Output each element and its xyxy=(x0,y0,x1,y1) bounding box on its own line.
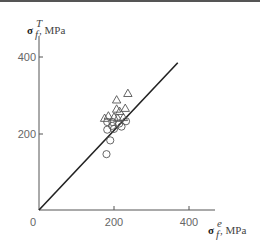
x-tick-label-400: 400 xyxy=(180,216,198,228)
y-tick-label-400: 400 xyxy=(18,51,36,63)
triangle-marker xyxy=(124,89,132,96)
circle-marker xyxy=(107,137,114,144)
x-axis-label: σ e f , MPa xyxy=(208,217,246,240)
origin-label: 0 xyxy=(30,216,36,228)
reference-line-segment xyxy=(39,63,178,210)
circle-marker xyxy=(103,151,110,158)
circle-marker xyxy=(104,126,111,133)
scatter-chart: 400 200 0 200 400 σ T f , MPa σ e f , MP… xyxy=(0,0,260,246)
svg-text:, MPa: , MPa xyxy=(39,24,65,36)
data-points xyxy=(100,89,132,158)
x-tick-label-200: 200 xyxy=(105,216,123,228)
triangle-marker xyxy=(121,104,129,111)
svg-text:σ: σ xyxy=(27,24,33,36)
triangle-marker xyxy=(112,105,120,112)
triangle-marker xyxy=(112,96,120,103)
svg-text:, MPa: , MPa xyxy=(220,224,246,236)
y-tick-label-200: 200 xyxy=(18,128,36,140)
svg-text:σ: σ xyxy=(208,224,214,236)
reference-line xyxy=(39,63,178,210)
y-axis-label: σ T f , MPa xyxy=(27,17,65,40)
